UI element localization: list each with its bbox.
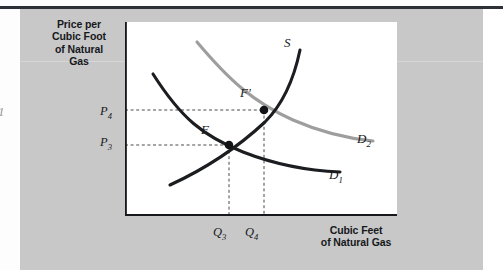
curve-label-d1: D1 [329,167,343,185]
axis-label-p4: P4 [100,104,112,121]
curve-label-s: S [284,35,291,51]
margin-artifact-glyph: 1 [0,104,5,120]
curve-label-d2: D2 [357,131,371,149]
y-axis-title-line-4: Gas [38,55,120,67]
equilibrium-point-f-prime [260,106,269,115]
axis-label-q4: Q4 [245,225,258,242]
y-axis-title-line-2: Cubic Foot [38,30,120,42]
figure-page: 1 Price per Cubic Foot of Natural Gas Cu… [0,0,503,279]
y-axis-title-line-3: of Natural [38,43,120,55]
plot-area [125,22,397,216]
y-axis-title-line-1: Price per [38,18,120,30]
equilibrium-point-f [225,141,234,150]
x-axis-title-line-2: of Natural Gas [292,236,420,248]
y-axis-title: Price per Cubic Foot of Natural Gas [38,18,120,68]
x-axis-title: Cubic Feet of Natural Gas [292,224,420,249]
axis-label-q3: Q3 [213,225,226,242]
point-label-f: F [201,122,209,138]
point-label-f-prime: F' [240,85,251,101]
supply-demand-chart [125,22,397,216]
axis-frame [125,22,397,216]
left-margin-strip [0,9,20,270]
axis-label-p3: P3 [100,135,112,152]
x-axis-title-line-1: Cubic Feet [292,224,420,236]
